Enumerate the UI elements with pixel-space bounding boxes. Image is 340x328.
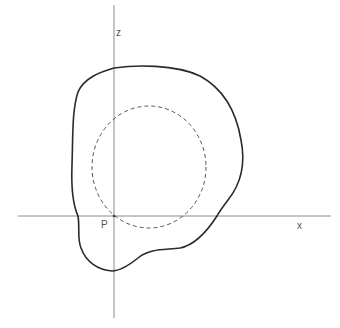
origin-label: P: [101, 220, 108, 230]
origin-point: [113, 215, 116, 218]
z-axis-label: z: [116, 28, 121, 38]
x-axis-label: x: [297, 221, 302, 231]
dashed-circle: [92, 106, 206, 228]
closed-boundary-curve: [72, 66, 243, 271]
diagram-svg: [0, 0, 340, 328]
diagram-canvas: z x P: [0, 0, 340, 328]
